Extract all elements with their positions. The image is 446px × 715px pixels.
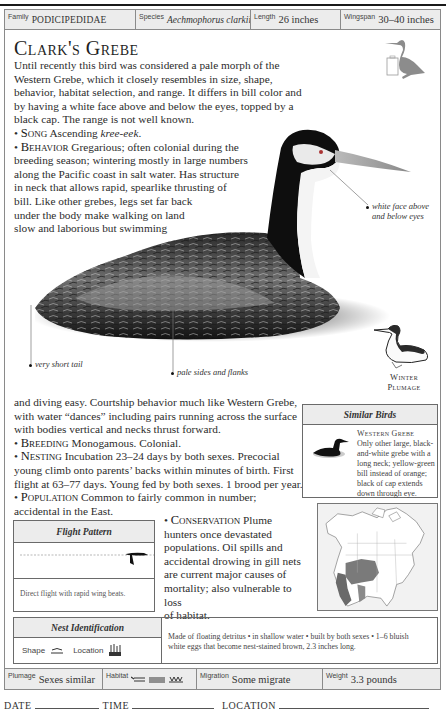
date-field[interactable] bbox=[35, 700, 99, 709]
species-label: Species bbox=[139, 13, 164, 20]
family-value: PODICIPEDIDAE bbox=[32, 15, 107, 25]
habitat-cell: Habitat bbox=[103, 669, 197, 689]
plumage-cell: Plumage Sexes similar bbox=[5, 669, 103, 689]
wingspan-label: Wingspan bbox=[344, 13, 375, 20]
species-cell: Species Aechmophorus clarkii bbox=[136, 10, 251, 29]
header-info-strip: Family PODICIPEDIDAE Species Aechmophoru… bbox=[4, 9, 441, 30]
nest-identification-title: Nest Identification bbox=[14, 618, 161, 638]
family-label: Family bbox=[8, 13, 29, 20]
wingspan-value: 30–40 inches bbox=[378, 14, 434, 25]
family-cell: Family PODICIPEDIDAE bbox=[5, 10, 136, 29]
winter-plumage-label: Winter Plumage bbox=[376, 372, 432, 392]
breeding-section: • Breeding Monogamous. Colonial. bbox=[14, 437, 304, 451]
tail-callout: very short tail bbox=[29, 359, 83, 369]
similar-birds-title: Similar Birds bbox=[303, 405, 437, 425]
western-grebe-icon bbox=[311, 437, 351, 459]
face-callout: white face above and below eyes bbox=[366, 201, 446, 221]
species-value: Aechmophorus clarkii bbox=[167, 15, 251, 25]
page-title: Clark's Grebe bbox=[14, 37, 139, 60]
habitat-label: Habitat bbox=[106, 672, 128, 679]
plumage-label: Plumage bbox=[8, 672, 36, 679]
habitat-marsh-icon bbox=[169, 675, 183, 683]
location-field[interactable] bbox=[279, 700, 429, 709]
range-map bbox=[317, 503, 438, 611]
platform-nest-icon bbox=[51, 646, 63, 654]
habitat-water-icon bbox=[149, 675, 165, 683]
size-silhouette-icon bbox=[385, 35, 430, 80]
migration-value: Some migrate bbox=[232, 674, 291, 685]
flight-path-icon bbox=[14, 543, 154, 579]
weight-cell: Weight 3.3 pounds bbox=[323, 669, 440, 689]
reeds-location-icon bbox=[109, 644, 121, 656]
length-value: 26 inches bbox=[278, 14, 318, 25]
nest-shape-label: Shape bbox=[22, 646, 45, 655]
nesting-section: • Nesting Incubation 23–24 days by both … bbox=[14, 450, 304, 491]
migration-cell: Migration Some migrate bbox=[197, 669, 323, 689]
wingspan-cell: Wingspan 30–40 inches bbox=[341, 10, 440, 29]
flight-pattern-panel: Flight Pattern Direct flight with rapid … bbox=[13, 520, 155, 612]
flight-pattern-caption: Direct flight with rapid wing beats. bbox=[14, 579, 154, 598]
clarks-grebe-illustration bbox=[35, 128, 445, 350]
flight-pattern-title: Flight Pattern bbox=[14, 521, 154, 543]
length-label: Length bbox=[254, 13, 275, 20]
migration-label: Migration bbox=[200, 672, 229, 679]
nest-description: Made of floating detritus • in shallow w… bbox=[162, 618, 437, 663]
habitat-lake-icon bbox=[131, 675, 145, 683]
similar-bird-name: Western Grebe bbox=[357, 429, 437, 439]
nest-location-label: Location bbox=[73, 646, 103, 655]
top-rule bbox=[0, 4, 446, 6]
conservation-section: • Conservation Plume hunters once devast… bbox=[164, 514, 310, 623]
similar-birds-panel: Similar Birds Western Grebe Only other l… bbox=[302, 404, 438, 498]
winter-plumage-illustration bbox=[372, 322, 432, 370]
plumage-value: Sexes similar bbox=[39, 674, 95, 685]
location-label: LOCATION bbox=[222, 700, 276, 711]
time-label: TIME bbox=[103, 700, 129, 711]
nest-identification-panel: Nest Identification Shape Location Made … bbox=[13, 617, 438, 664]
sides-callout: pale sides and flanks bbox=[171, 367, 248, 377]
observation-log: DATE TIME LOCATION bbox=[4, 700, 444, 711]
species-details: and diving easy. Courtship behavior much… bbox=[14, 396, 304, 518]
flight-pattern-diagram bbox=[14, 543, 154, 579]
footer-info-strip: Plumage Sexes similar Habitat Migration … bbox=[4, 668, 441, 690]
similar-bird-description: Western Grebe Only other large, black- a… bbox=[357, 429, 437, 499]
date-label: DATE bbox=[4, 700, 32, 711]
time-field[interactable] bbox=[132, 700, 214, 709]
weight-label: Weight bbox=[326, 672, 348, 679]
intro-paragraph: Until recently this bird was considered … bbox=[14, 59, 310, 127]
weight-value: 3.3 pounds bbox=[351, 674, 397, 685]
length-cell: Length 26 inches bbox=[251, 10, 341, 29]
